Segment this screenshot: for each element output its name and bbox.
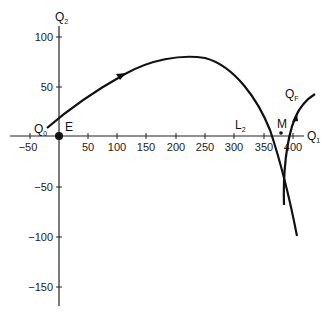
direction-arrow-icon	[292, 113, 298, 122]
x-tick-label: 250	[196, 141, 214, 153]
label-e: E	[65, 120, 73, 134]
y-axis-label: Q2	[55, 10, 68, 25]
x-tick-labels: −50 50 100 150 200 250 300 350 400	[19, 141, 303, 153]
label-qf: QF	[285, 87, 299, 102]
x-tick-label: 200	[167, 141, 185, 153]
label-l2: L2	[235, 118, 246, 133]
x-tick-label: 350	[255, 141, 273, 153]
equilibrium-point-e	[55, 132, 63, 140]
y-tick-label: 50	[41, 81, 53, 93]
y-tick-label: −100	[28, 231, 53, 243]
y-tick-label: −150	[28, 281, 53, 293]
y-tick-label: −50	[34, 181, 53, 193]
x-tick-label: 50	[82, 141, 94, 153]
point-m	[279, 131, 283, 135]
label-m: M	[277, 117, 287, 131]
x-tick-label: 300	[225, 141, 243, 153]
label-q0: Q0	[34, 122, 47, 137]
x-tick-label: 100	[108, 141, 126, 153]
phase-diagram: −50 50 100 150 200 250 300 350 400 100 5…	[0, 0, 331, 317]
x-axis-label: Q1	[307, 129, 320, 144]
x-tick-label: 150	[137, 141, 155, 153]
x-tick-label: −50	[19, 141, 38, 153]
y-tick-labels: 100 50 −50 −100 −150	[28, 31, 53, 293]
y-tick-label: 100	[35, 31, 53, 43]
